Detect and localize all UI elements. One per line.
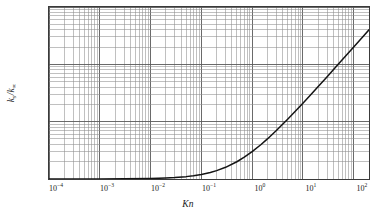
data-curve — [49, 7, 369, 179]
x-tick-label-1e-4: 10−4 — [49, 185, 63, 193]
x-axis-title-n: n — [189, 199, 194, 209]
x-tick-base: 10 — [255, 184, 263, 193]
x-tick-base: 10 — [151, 184, 159, 193]
y-axis-title: ks/k∞ — [6, 84, 16, 103]
x-tick-base: 10 — [202, 184, 210, 193]
x-tick-label-1e2: 102 — [357, 185, 368, 193]
x-tick-label-1e-3: 10−3 — [100, 185, 114, 193]
x-tick-label-1e-2: 10−2 — [151, 185, 165, 193]
x-tick-exponent: −2 — [159, 182, 165, 188]
x-tick-exponent: −3 — [108, 182, 114, 188]
y-axis-title-denominator-sub: ∞ — [10, 84, 17, 89]
x-tick-exponent: −4 — [57, 182, 63, 188]
x-tick-label-1e1: 101 — [306, 185, 317, 193]
x-tick-exponent: −1 — [210, 182, 216, 188]
chart-figure: 1000 100 10 1 10−4 10−3 10−2 10−1 100 10… — [0, 0, 376, 218]
x-tick-base: 10 — [100, 184, 108, 193]
y-axis-title-denominator: k — [6, 88, 16, 92]
x-tick-exponent: 0 — [263, 182, 266, 188]
x-tick-base: 10 — [357, 184, 365, 193]
x-tick-label-1e0: 100 — [255, 185, 266, 193]
x-tick-exponent: 2 — [365, 182, 368, 188]
plot-area — [48, 6, 370, 180]
y-axis-title-numerator: k — [6, 98, 16, 102]
x-tick-base: 10 — [49, 184, 57, 193]
x-axis-title: Kn — [0, 199, 376, 209]
x-tick-exponent: 1 — [314, 182, 317, 188]
x-tick-label-1e-1: 10−1 — [202, 185, 216, 193]
y-axis-title-numerator-sub: s — [10, 96, 17, 99]
x-tick-base: 10 — [306, 184, 314, 193]
